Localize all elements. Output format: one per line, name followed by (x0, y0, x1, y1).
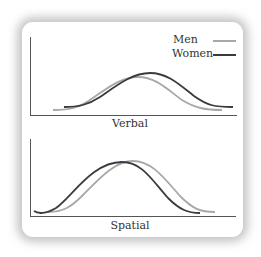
verbal-axis-title: Verbal (112, 117, 148, 130)
spatial-men-curve (48, 161, 215, 212)
legend-women-label: Women (172, 47, 213, 60)
legend-men-label: Men (173, 33, 198, 46)
spatial-axis-title: Spatial (110, 219, 149, 232)
spatial-women-curve (34, 162, 200, 213)
figure: Men Women Verbal Spatial (0, 0, 261, 257)
